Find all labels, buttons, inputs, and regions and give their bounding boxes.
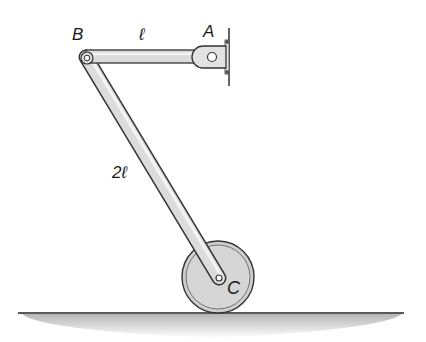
label-length-bc: 2ℓ — [111, 163, 127, 182]
ground — [18, 313, 404, 338]
link-bc — [86, 56, 222, 278]
bolt-icon — [225, 40, 229, 44]
bolt-icon — [225, 70, 229, 74]
mechanism-diagram: B ℓ A 2ℓ C — [0, 0, 426, 342]
label-c: C — [227, 278, 241, 298]
bracket-a — [192, 46, 226, 68]
label-a: A — [202, 22, 214, 41]
pin-c — [216, 275, 222, 281]
pin-b — [81, 52, 93, 64]
label-length-ab: ℓ — [138, 25, 145, 44]
pin-a-icon — [208, 53, 217, 62]
ground-shading — [22, 314, 402, 338]
label-b: B — [72, 25, 83, 44]
